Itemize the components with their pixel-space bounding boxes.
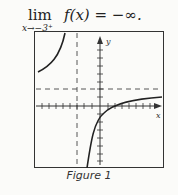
curve-right-branch	[87, 97, 162, 168]
lim-word: lim	[28, 6, 52, 24]
y-axis-arrow-icon	[97, 36, 103, 44]
graph-figure: y x	[34, 31, 164, 168]
x-axis-label: x	[156, 111, 161, 120]
curve-left-branch	[38, 33, 65, 72]
figure-caption: Figure 1	[0, 169, 178, 182]
x-axis-arrow-icon	[154, 103, 162, 109]
lim-expression: f(x) = −∞.	[64, 6, 142, 24]
y-axis-label: y	[105, 37, 111, 46]
